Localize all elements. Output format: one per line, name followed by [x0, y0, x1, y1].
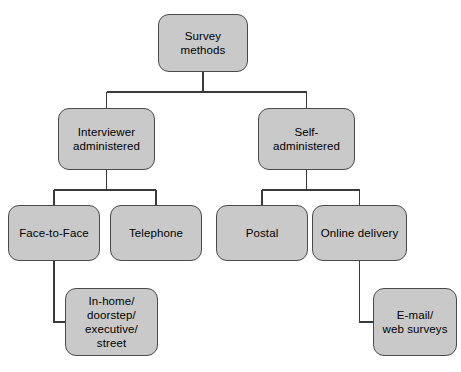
- node-survey-methods[interactable]: Survey methods: [158, 14, 248, 72]
- node-label-survey-methods: Survey methods: [159, 29, 247, 57]
- node-telephone[interactable]: Telephone: [110, 205, 202, 261]
- node-e-mail-web-surveys[interactable]: E-mail/ web surveys: [373, 288, 457, 356]
- node-label-face-to-face: Face-to-Face: [15, 226, 93, 240]
- node-label-self-administered: Self- administered: [269, 125, 344, 153]
- edge-online-delivery-to-e-mail-web-surveys: [360, 261, 374, 322]
- node-online-delivery[interactable]: Online delivery: [312, 205, 407, 261]
- node-label-telephone: Telephone: [125, 226, 187, 240]
- edge-face-to-face-to-in-home-doorstep-executive-street: [54, 261, 65, 322]
- node-label-in-home-doorstep-executive-street: In-home/ doorstep/ executive/ street: [81, 294, 142, 350]
- node-self-administered[interactable]: Self- administered: [258, 108, 355, 170]
- node-label-e-mail-web-surveys: E-mail/ web surveys: [378, 308, 451, 336]
- node-interviewer-administered[interactable]: Interviewer administered: [58, 108, 155, 170]
- node-label-postal: Postal: [242, 226, 283, 240]
- node-label-online-delivery: Online delivery: [317, 226, 403, 240]
- node-postal[interactable]: Postal: [216, 205, 308, 261]
- survey-methods-diagram: Survey methods Interviewer administered …: [0, 0, 461, 372]
- node-in-home-doorstep-executive-street[interactable]: In-home/ doorstep/ executive/ street: [65, 288, 158, 356]
- node-face-to-face[interactable]: Face-to-Face: [8, 205, 100, 261]
- node-label-interviewer-administered: Interviewer administered: [69, 125, 144, 153]
